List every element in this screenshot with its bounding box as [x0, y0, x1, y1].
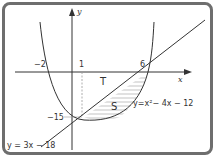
tick-label-6: 6 [140, 60, 145, 69]
x-axis-label: x [178, 75, 183, 84]
x-axis [15, 69, 192, 75]
y-axis-label: y [76, 7, 82, 16]
line-equation-label: y = 3x − 18 [7, 141, 55, 150]
tick-label-neg15: −15 [47, 113, 64, 122]
tick-label-neg2: −2 [34, 60, 46, 69]
tick-label-1: 1 [79, 60, 84, 69]
x-axis-arrow-icon [184, 69, 192, 75]
shaded-region-s [70, 78, 160, 118]
region-label-s: S [111, 101, 117, 112]
graph-canvas: y x −2 1 6 −15 T S y=x²− 4x − 12 y = 3x … [0, 0, 214, 157]
y-axis [69, 8, 75, 150]
y-axis-arrow-icon [69, 8, 75, 16]
parabola-equation-label: y=x²− 4x − 12 [133, 99, 193, 108]
region-label-t: T [99, 76, 107, 87]
